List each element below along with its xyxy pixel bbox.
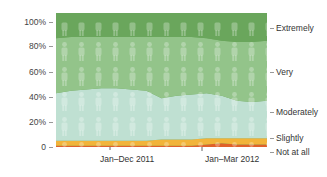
- legend-dash: [270, 152, 274, 153]
- legend-dash: [270, 138, 274, 139]
- x-tick-label: Jan–Dec 2011: [100, 154, 154, 164]
- y-tick-label: 0: [0, 142, 46, 152]
- people-icon-pattern: [56, 22, 267, 147]
- legend-item-very: Very: [276, 67, 293, 77]
- legend-item-slightly: Slightly: [276, 133, 303, 143]
- y-tick-mark: [49, 72, 53, 73]
- x-tick-label: Jan–Mar 2012: [205, 154, 259, 164]
- legend-dash: [270, 112, 274, 113]
- legend-dash: [270, 72, 274, 73]
- y-tick-mark: [49, 22, 53, 23]
- y-tick-mark: [49, 122, 53, 123]
- y-tick-label: 80%: [0, 41, 46, 51]
- legend-dash: [270, 28, 274, 29]
- legend-item-moderately: Moderately: [276, 107, 318, 117]
- y-tick-label: 60%: [0, 67, 46, 77]
- legend-item-not-at-all: Not at all: [276, 147, 310, 157]
- y-tick-label: 20%: [0, 117, 46, 127]
- y-tick-mark: [49, 46, 53, 47]
- y-tick-mark: [49, 147, 53, 148]
- y-tick-label: 40%: [0, 92, 46, 102]
- y-tick-mark: [49, 97, 53, 98]
- legend-item-extremely: Extremely: [276, 23, 314, 33]
- y-tick-label: 100%: [0, 17, 46, 27]
